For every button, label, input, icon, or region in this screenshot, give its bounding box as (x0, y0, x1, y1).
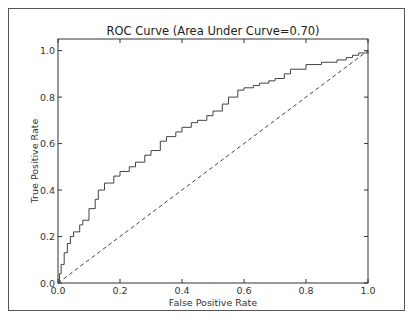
x-tick-label: 0.8 (298, 285, 313, 296)
y-tick-label: 0.6 (40, 138, 55, 149)
x-tick-label: 1.0 (360, 285, 375, 296)
x-tick-label: 0.2 (112, 285, 127, 296)
chart-title: ROC Curve (Area Under Curve=0.70) (106, 24, 319, 38)
y-tick-label: 0.2 (40, 231, 55, 242)
y-tick-label: 0.0 (40, 278, 55, 289)
plot-area (58, 39, 368, 283)
x-axis-ticks: 0.00.20.40.60.81.0 (50, 39, 375, 296)
x-tick-label: 0.6 (236, 285, 251, 296)
y-tick-label: 0.4 (40, 185, 55, 196)
roc-chart: ROC Curve (Area Under Curve=0.70) 0.00.2… (0, 0, 414, 327)
y-axis-ticks: 0.00.20.40.60.81.0 (40, 45, 368, 288)
x-axis-label: False Positive Rate (169, 297, 257, 308)
y-tick-label: 1.0 (40, 45, 55, 56)
x-tick-label: 0.4 (174, 285, 189, 296)
y-axis-label: True Positive Rate (29, 119, 40, 205)
random-baseline-line (58, 51, 368, 283)
y-tick-label: 0.8 (40, 92, 55, 103)
